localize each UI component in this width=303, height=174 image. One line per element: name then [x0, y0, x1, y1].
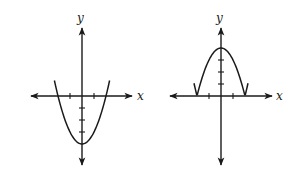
graphs-canvas: x y x y: [0, 0, 303, 174]
figure: x y x y: [0, 0, 303, 174]
right-graph: x y: [170, 11, 283, 165]
left-y-label: y: [76, 11, 84, 25]
right-y-label: y: [215, 11, 223, 25]
left-x-label: x: [137, 89, 144, 103]
right-x-label: x: [276, 89, 283, 103]
left-graph: x y: [31, 11, 144, 165]
